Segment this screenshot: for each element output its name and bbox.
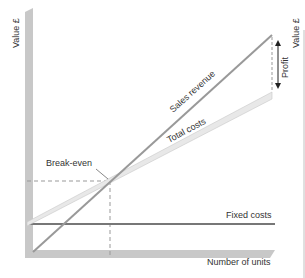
y-axis-label: Value £ [11, 18, 21, 48]
break-even-chart: Value £ Value £ Profit Sales revenue Tot… [0, 0, 305, 278]
profit-label: Profit [280, 56, 290, 78]
profit-arrow-up-icon [275, 40, 281, 46]
fixed-costs-label: Fixed costs [226, 210, 272, 220]
break-even-label: Break-even [46, 158, 92, 168]
y-axis-label-right: Value £ [291, 18, 301, 48]
profit-arrow-down-icon [275, 83, 281, 89]
x-axis-label: Number of units [207, 257, 271, 267]
break-even-pointer [96, 169, 108, 179]
